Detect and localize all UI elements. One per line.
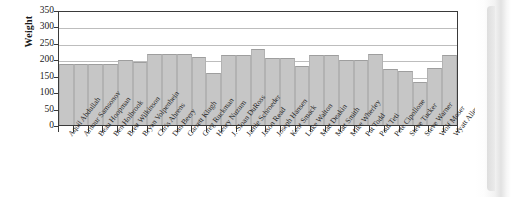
y-axis-tick-marks — [0, 11, 58, 126]
x-axis-tick-labels: Aquil AbdullahArnour SamsonovBeau Hoopma… — [58, 133, 458, 197]
bar-chart: Weight 050100150200250300350 Aquil Abdul… — [0, 0, 470, 197]
page-edge-shadow — [475, 0, 511, 197]
x-axis-tick-mark — [58, 126, 59, 132]
bar — [59, 64, 74, 125]
scanned-page-background: Weight 050100150200250300350 Aquil Abdul… — [0, 0, 511, 197]
